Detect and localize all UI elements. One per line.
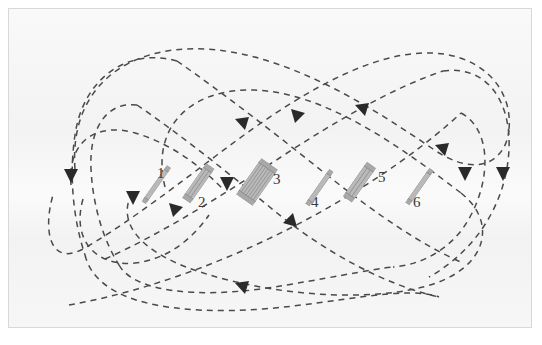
arrowhead-diag-down-left	[169, 203, 183, 217]
beam-diagonal-down-2	[137, 105, 439, 297]
arrowhead-diag-down-center	[291, 109, 305, 123]
optic-label-6: 6	[413, 195, 421, 210]
optic-label-2: 2	[198, 195, 206, 210]
beam-left-return-outer	[72, 58, 177, 255]
beam-bottom-arc-inner	[119, 265, 393, 293]
arrowhead-left-outer	[64, 169, 78, 183]
arrowhead-right-outer	[496, 167, 510, 181]
optic-label-3: 3	[273, 172, 281, 187]
beam-diagonal-down-1	[177, 61, 463, 263]
diagram-frame: 123456	[8, 8, 532, 328]
arrowhead-right-inner	[458, 167, 472, 181]
arrowhead-diag-up-center	[355, 103, 369, 116]
arrowhead-diag-up-left	[235, 117, 249, 130]
optic-label-5: 5	[378, 170, 386, 185]
beam-diagonal-up-2	[69, 113, 461, 305]
optic-label-4: 4	[311, 195, 319, 210]
optic-label-1: 1	[157, 166, 165, 181]
figure-page: 123456	[0, 0, 542, 345]
beam-right-return-outer	[429, 70, 509, 277]
